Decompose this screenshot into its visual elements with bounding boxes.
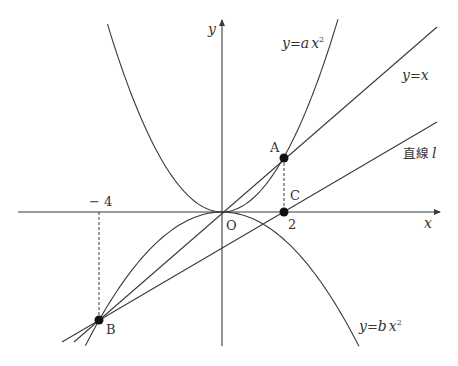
y-axis-label: y <box>207 21 217 37</box>
line-l <box>62 122 437 342</box>
parabola-b-label: y=bx2 <box>358 318 402 334</box>
line-y-eq-x-label: y=x <box>401 67 429 83</box>
x-axis-label: x <box>424 215 432 231</box>
tick-label-2: 2 <box>288 217 296 232</box>
origin-label: O <box>226 218 237 233</box>
point-a-label: A <box>269 140 280 155</box>
point-b <box>95 316 104 325</box>
point-a <box>280 154 289 163</box>
point-b-label: B <box>106 322 116 337</box>
coordinate-diagram: y x O − 4 2 A B C y=ax2 y=x 直線l y=bx2 <box>0 0 458 366</box>
parabola-a-label: y=ax2 <box>281 35 324 51</box>
tick-label-neg4: − 4 <box>89 194 112 209</box>
point-c-label: C <box>290 188 300 203</box>
line-l-label: 直線l <box>403 145 436 161</box>
line-y-eq-x <box>74 27 437 342</box>
point-c <box>280 208 289 217</box>
